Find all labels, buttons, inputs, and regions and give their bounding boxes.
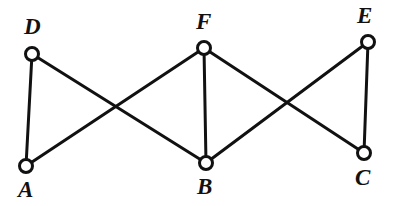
vertex-label-c: C bbox=[355, 166, 370, 189]
graph-edge-d-b bbox=[32, 54, 206, 163]
vertex-label-f: F bbox=[196, 10, 211, 33]
vertex-label-a: A bbox=[18, 178, 33, 201]
vertex-label-e: E bbox=[357, 4, 372, 27]
vertex-layer bbox=[20, 36, 375, 173]
vertex-label-d: D bbox=[24, 15, 41, 38]
graph-edge-f-b bbox=[204, 48, 206, 163]
graph-vertex-f bbox=[198, 42, 211, 55]
graph-vertex-b bbox=[200, 157, 213, 170]
graph-edge-d-a bbox=[26, 54, 32, 166]
graph-vertex-c bbox=[358, 147, 371, 160]
vertex-label-b: B bbox=[197, 175, 212, 198]
graph-vertex-d bbox=[26, 48, 39, 61]
graph-figure: DFEABC bbox=[0, 0, 393, 206]
graph-vertex-a bbox=[20, 160, 33, 173]
graph-edge-b-e bbox=[206, 42, 368, 163]
graph-vertex-e bbox=[362, 36, 375, 49]
edge-layer bbox=[26, 42, 368, 166]
graph-edge-e-c bbox=[364, 42, 368, 153]
